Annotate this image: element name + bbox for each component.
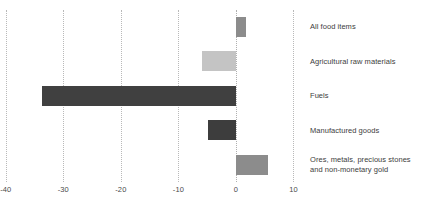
bar[interactable] bbox=[236, 155, 268, 175]
x-tick-label: -40 bbox=[0, 185, 11, 194]
category-label-line: All food items bbox=[310, 22, 427, 32]
x-axis: -40-30-20-10010 bbox=[0, 182, 305, 202]
bar[interactable] bbox=[202, 51, 236, 71]
x-tick-label: 10 bbox=[289, 185, 298, 194]
bar-row bbox=[0, 113, 305, 147]
bar-row bbox=[0, 44, 305, 78]
x-tick-label: 0 bbox=[234, 185, 238, 194]
category-axis-labels: All food itemsAgricultural raw materials… bbox=[310, 10, 427, 182]
category-label-line: Ores, metals, precious stones bbox=[310, 155, 427, 165]
bar-chart: -40-30-20-10010 All food itemsAgricultur… bbox=[0, 0, 427, 207]
category-label-line: Fuels bbox=[310, 91, 427, 101]
x-tick-label: -20 bbox=[115, 185, 126, 194]
category-label: Ores, metals, precious stonesand non-mon… bbox=[310, 155, 427, 174]
x-tick-label: -10 bbox=[173, 185, 184, 194]
bar-row bbox=[0, 148, 305, 182]
bar[interactable] bbox=[236, 17, 246, 37]
category-label-line: Agricultural raw materials bbox=[310, 57, 427, 67]
plot-area bbox=[0, 10, 305, 182]
category-label: Fuels bbox=[310, 91, 427, 101]
bar[interactable] bbox=[42, 86, 236, 106]
bar-row bbox=[0, 79, 305, 113]
bar-row bbox=[0, 10, 305, 44]
x-tick-label: -30 bbox=[58, 185, 69, 194]
category-label-line: and non-monetary gold bbox=[310, 165, 427, 175]
category-label: All food items bbox=[310, 22, 427, 32]
category-label: Manufactured goods bbox=[310, 126, 427, 136]
category-label-line: Manufactured goods bbox=[310, 126, 427, 136]
category-label: Agricultural raw materials bbox=[310, 57, 427, 67]
bar[interactable] bbox=[208, 120, 236, 140]
